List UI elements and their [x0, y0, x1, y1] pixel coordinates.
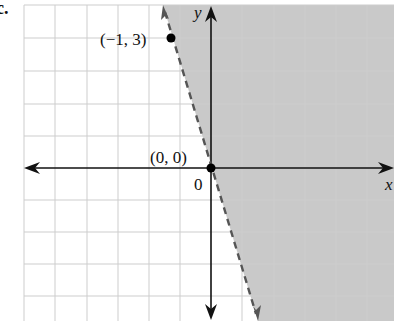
- y-axis-label: y: [192, 3, 202, 22]
- origin-label: 0: [194, 175, 203, 194]
- inequality-graph: c. (−1, 3) (0, 0) 0 y x: [0, 0, 394, 321]
- point-neg1-3: [167, 34, 176, 43]
- problem-label: c.: [0, 0, 9, 18]
- point-label-origin: (0, 0): [150, 148, 187, 167]
- point-origin: [207, 164, 216, 173]
- shaded-region: [163, 5, 394, 321]
- x-axis-label: x: [384, 175, 393, 194]
- point-label-neg1-3: (−1, 3): [100, 30, 146, 49]
